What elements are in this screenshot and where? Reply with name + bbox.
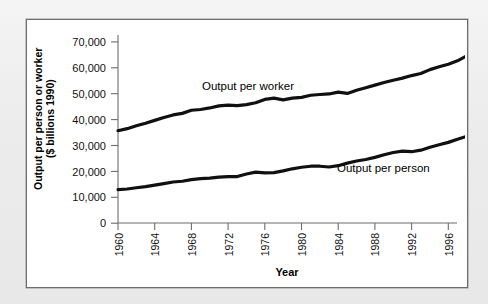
x-axis-title: Year [275,266,299,278]
y-tick-label: 10,000 [72,191,106,203]
chart-screenshot: Output per person or worker ($ billions … [0,0,488,304]
y-tick-label: 20,000 [72,166,106,178]
y-axis-ticks [111,42,118,223]
x-tick-label: 1968 [186,233,198,257]
x-tick-label: 1976 [259,233,271,257]
y-tick-label: 30,000 [72,140,106,152]
y-axis-title-line2: ($ billions 1990) [44,79,56,158]
annotation-output-per-person: Output per person [337,162,430,174]
x-axis-ticks [118,223,448,230]
x-tick-label: 1996 [443,233,455,257]
y-tick-label: 70,000 [72,36,106,48]
annotation-output-per-worker: Output per worker [202,80,294,92]
y-tick-label: 40,000 [72,114,106,126]
y-tick-label: 60,000 [72,62,106,74]
x-tick-label: 1972 [223,233,235,257]
x-tick-label: 1960 [113,233,125,257]
y-tick-label: 0 [100,217,106,229]
series-line-output-per-worker [118,56,465,131]
y-axis-tick-labels: 70,000 60,000 50,000 40,000 30,000 20,00… [72,36,106,229]
x-tick-label: 1992 [406,233,418,257]
figure-frame: Output per person or worker ($ billions … [26,19,468,288]
y-axis-title: Output per person or worker ($ billions … [32,48,56,190]
x-tick-label: 1980 [296,233,308,257]
x-tick-label: 1988 [369,233,381,257]
x-tick-label: 1964 [149,233,161,257]
x-axis-tick-labels: 1960 1964 1968 1972 1976 1980 1984 1988 … [113,233,455,257]
y-axis-title-line1: Output per person or worker [32,48,44,190]
x-tick-label: 1984 [333,233,345,257]
line-chart: Output per person or worker ($ billions … [27,20,465,285]
y-tick-label: 50,000 [72,88,106,100]
